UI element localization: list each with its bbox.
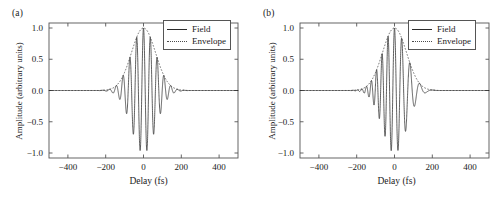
figure-root: (a) Amplitude (arbitrary units) −400−200… xyxy=(0,0,502,203)
legend-item-field: Field xyxy=(412,23,471,35)
y-tick-label: −1.0 xyxy=(27,148,44,158)
x-tick-label: 400 xyxy=(463,162,477,172)
x-tick-label: 400 xyxy=(212,162,226,172)
y-tick-label: 1.0 xyxy=(32,23,44,33)
panel-b-legend: Field Envelope xyxy=(408,20,476,50)
x-tick-label: −200 xyxy=(96,162,115,172)
y-tick-label: −0.5 xyxy=(278,117,295,127)
x-tick-label: 0 xyxy=(141,162,146,172)
legend-label-envelope: Envelope xyxy=(437,36,471,47)
panel-a: (a) Amplitude (arbitrary units) −400−200… xyxy=(0,0,251,203)
x-tick-label: −200 xyxy=(347,162,366,172)
panel-b-x-axis-label: Delay (fs) xyxy=(251,176,502,186)
x-tick-label: −400 xyxy=(310,162,329,172)
x-tick-label: 200 xyxy=(175,162,189,172)
y-tick-label: 0.5 xyxy=(32,54,44,64)
legend-item-envelope: Envelope xyxy=(167,35,226,47)
x-tick-label: 0 xyxy=(392,162,397,172)
y-tick-label: 1.0 xyxy=(283,23,295,33)
y-tick-label: −0.5 xyxy=(27,117,44,127)
legend-swatch-field-icon xyxy=(167,26,187,33)
y-tick-label: 0.5 xyxy=(283,54,295,64)
legend-label-field: Field xyxy=(437,24,456,35)
panel-a-x-axis-label: Delay (fs) xyxy=(0,176,251,186)
legend-item-envelope: Envelope xyxy=(412,35,471,47)
x-tick-label: 200 xyxy=(426,162,440,172)
legend-label-envelope: Envelope xyxy=(192,36,226,47)
legend-swatch-envelope-icon xyxy=(167,38,187,45)
legend-label-field: Field xyxy=(192,24,211,35)
x-tick-label: −400 xyxy=(59,162,78,172)
y-tick-label: 0.0 xyxy=(283,86,295,96)
legend-swatch-envelope-icon xyxy=(412,38,432,45)
y-tick-label: −1.0 xyxy=(278,148,295,158)
y-tick-label: 0.0 xyxy=(32,86,44,96)
legend-swatch-field-icon xyxy=(412,26,432,33)
panel-a-legend: Field Envelope xyxy=(163,20,231,50)
panel-b: (b) Amplitude (arbitrary units) −400−200… xyxy=(251,0,502,203)
legend-item-field: Field xyxy=(167,23,226,35)
